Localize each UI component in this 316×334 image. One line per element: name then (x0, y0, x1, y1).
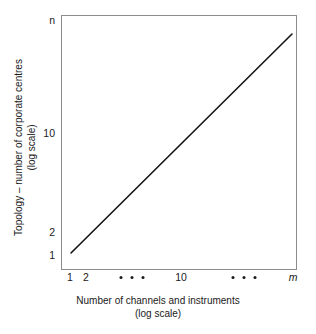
plot-area (61, 15, 297, 270)
y-tick-label-n: n (49, 15, 55, 26)
x-axis-title-line-1: Number of channels and instruments (0, 294, 316, 307)
chart-figure: n 10 2 1 Topology – number of corporate … (0, 0, 316, 334)
ellipsis-dot (232, 276, 235, 279)
x-axis-ellipsis-right (232, 276, 257, 279)
x-tick-label-1: 1 (67, 272, 73, 283)
x-tick-label-m: m (289, 272, 298, 283)
y-tick-label-1: 1 (49, 250, 55, 261)
data-line-series-0 (71, 34, 292, 253)
x-axis-tick-labels: 1 2 10 m (0, 272, 316, 288)
ellipsis-dot (131, 276, 134, 279)
ellipsis-dot (142, 276, 145, 279)
x-axis-title: Number of channels and instruments (log … (0, 294, 316, 320)
ellipsis-dot (254, 276, 257, 279)
ellipsis-dot (243, 276, 246, 279)
y-axis-title-line-2: (log scale) (25, 30, 38, 266)
x-tick-label-10: 10 (175, 272, 187, 283)
y-axis-title: Topology – number of corporate centres (… (13, 30, 38, 266)
y-tick-label-10: 10 (43, 128, 55, 139)
y-axis-title-line-1: Topology – number of corporate centres (13, 30, 26, 266)
y-tick-label-2: 2 (49, 227, 55, 238)
x-tick-label-2: 2 (83, 272, 89, 283)
ellipsis-dot (120, 276, 123, 279)
x-axis-title-line-2: (log scale) (0, 307, 316, 320)
x-axis-ellipsis-left (120, 276, 145, 279)
